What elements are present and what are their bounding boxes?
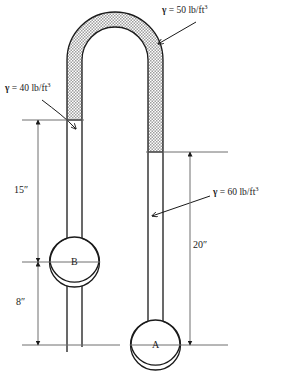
gamma-50-exponent: 3 bbox=[204, 3, 207, 10]
gamma-50-value: = 50 lb/ft bbox=[166, 5, 204, 15]
gamma-40-value: = 40 lb/ft bbox=[9, 83, 47, 93]
gamma-40-label: γ = 40 lb/ft3 bbox=[5, 84, 51, 94]
gamma-60-value: = 60 lb/ft bbox=[217, 187, 255, 197]
leader-gamma-50 bbox=[158, 22, 196, 44]
witness-lines bbox=[22, 120, 228, 345]
gamma-40-exponent: 3 bbox=[47, 81, 50, 88]
gamma-60-label: γ = 60 lb/ft3 bbox=[213, 188, 259, 198]
dimension-label-20: 20″ bbox=[193, 240, 207, 250]
dimension-label-8: 8″ bbox=[16, 297, 25, 307]
gamma-60-exponent: 3 bbox=[255, 185, 258, 192]
vessel-b-label: B bbox=[71, 257, 78, 267]
gamma-50-label: γ = 50 lb/ft3 bbox=[162, 6, 208, 16]
tube-outline bbox=[67, 12, 163, 352]
leader-gamma-60 bbox=[152, 196, 210, 216]
dimension-label-15: 15″ bbox=[14, 185, 28, 195]
vessel-a-label: A bbox=[152, 340, 159, 350]
